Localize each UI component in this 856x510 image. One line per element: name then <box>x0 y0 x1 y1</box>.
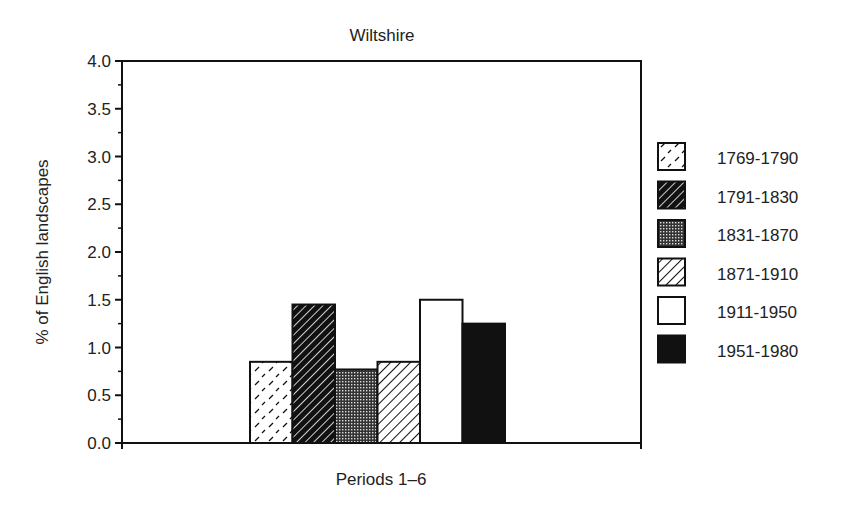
legend-label: 1911-1950 <box>717 303 797 322</box>
y-tick-label: 0.5 <box>87 386 111 405</box>
legend-label: 1791-1830 <box>717 188 798 207</box>
legend-swatch <box>658 259 685 286</box>
legend-swatch <box>658 336 685 363</box>
y-tick-label: 4.0 <box>87 52 111 71</box>
legend-label: 1951-1980 <box>717 342 798 361</box>
y-tick-label: 3.0 <box>87 148 111 167</box>
legend-swatch <box>658 297 685 324</box>
y-axis-label: % of English landscapes <box>33 159 52 344</box>
y-tick-label: 2.5 <box>87 195 111 214</box>
bar-1791-1830 <box>293 305 336 443</box>
y-tick-label: 3.5 <box>87 100 111 119</box>
bar-1831-1870 <box>335 369 378 443</box>
bar-1769-1790 <box>250 362 293 443</box>
x-axis-label: Periods 1–6 <box>336 470 427 489</box>
legend-swatch <box>658 220 685 247</box>
y-tick-label: 2.0 <box>87 243 111 262</box>
bar-chart: Wiltshire % of English landscapes Period… <box>0 0 856 510</box>
bar-1951-1980 <box>463 324 506 443</box>
legend-swatch <box>658 182 685 209</box>
bar-1871-1910 <box>378 362 421 443</box>
legend-swatch <box>658 143 685 170</box>
legend-label: 1871-1910 <box>717 265 798 284</box>
y-tick-label: 1.5 <box>87 291 111 310</box>
legend-label: 1769-1790 <box>717 149 798 168</box>
y-tick-label: 0.0 <box>87 434 111 453</box>
bar-1911-1950 <box>420 300 463 443</box>
y-tick-label: 1.0 <box>87 339 111 358</box>
chart-title: Wiltshire <box>349 26 414 45</box>
legend-label: 1831-1870 <box>717 226 798 245</box>
